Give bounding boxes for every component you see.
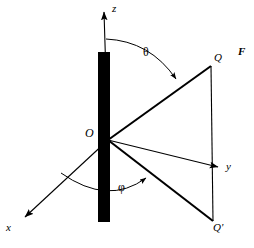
diagram-svg	[0, 0, 254, 248]
figure-canvas: z y x O Q Q' θ φ F	[0, 0, 254, 248]
point-label-Q: Q	[214, 52, 222, 63]
vertical-rod	[98, 52, 110, 222]
axis-x-line	[25, 140, 108, 217]
angle-label-theta: θ	[143, 46, 149, 58]
segment-Q-to-Qprime	[211, 66, 213, 221]
angle-label-phi: φ	[118, 181, 125, 193]
axis-label-y: y	[226, 161, 231, 172]
point-label-Q-prime: Q'	[213, 222, 223, 233]
axis-label-z: z	[112, 3, 116, 14]
ray-O-to-Q	[108, 66, 211, 140]
angle-arc-theta	[106, 39, 176, 79]
origin-label-O: O	[85, 127, 94, 139]
axis-label-x: x	[6, 222, 11, 233]
field-label-F: F	[238, 46, 245, 57]
